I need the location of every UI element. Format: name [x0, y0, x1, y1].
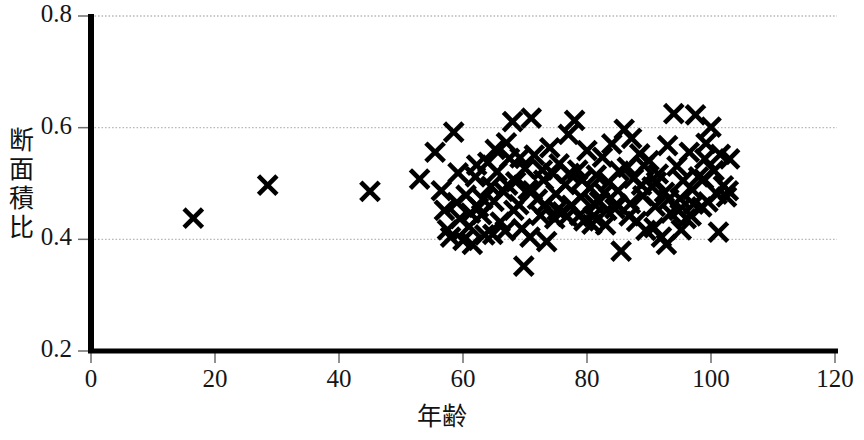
scatter-chart: 断 面 積 比 年齢 0.20.40.60.8 020406080100120	[0, 0, 864, 440]
data-point-marker	[362, 184, 377, 199]
x-tick-label: 0	[51, 365, 131, 393]
data-point-marker	[516, 259, 531, 274]
data-point-marker	[505, 114, 520, 129]
data-point-marker	[579, 143, 594, 158]
data-point-marker	[682, 145, 697, 160]
data-point-marker	[450, 165, 465, 180]
data-point-marker	[703, 120, 718, 135]
data-point-marker	[186, 211, 201, 226]
data-point-marker	[711, 224, 726, 239]
data-point-marker	[698, 136, 713, 151]
data-point-marker	[260, 178, 275, 193]
y-tick-label: 0.4	[0, 223, 72, 251]
y-axis-title-char-3: 積	[4, 184, 38, 213]
data-point-marker	[660, 138, 675, 153]
x-tick-label: 80	[547, 365, 627, 393]
x-tick-label: 40	[299, 365, 379, 393]
x-tick-label: 120	[795, 365, 864, 393]
x-tick-label: 60	[423, 365, 503, 393]
x-tick-label: 100	[671, 365, 751, 393]
data-point-marker	[539, 234, 554, 249]
data-point-marker	[524, 111, 539, 126]
data-point-marker	[428, 145, 443, 160]
data-point-marker	[434, 183, 449, 198]
data-point-marker	[506, 203, 521, 218]
y-tick-label: 0.2	[0, 335, 72, 363]
data-points	[186, 106, 738, 274]
data-point-marker	[446, 125, 461, 140]
y-axis-title-char-2: 面	[4, 155, 38, 184]
data-point-marker	[614, 243, 629, 258]
x-tick-label: 20	[175, 365, 255, 393]
data-point-marker	[412, 171, 427, 186]
x-axis-title: 年齢	[382, 396, 502, 432]
y-tick-label: 0.8	[0, 0, 72, 28]
data-point-marker	[522, 230, 537, 245]
y-tick-label: 0.6	[0, 112, 72, 140]
data-point-marker	[666, 106, 681, 121]
